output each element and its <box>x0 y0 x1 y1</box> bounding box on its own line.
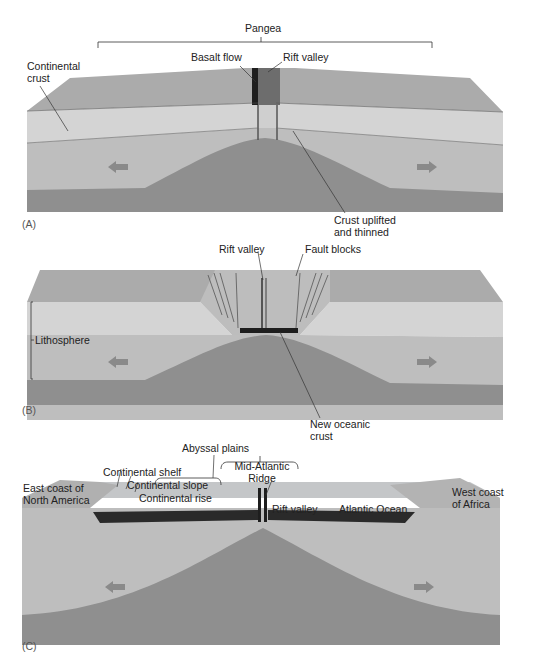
east-coast-label: East coast of North America <box>23 482 90 506</box>
rift-valley-label: Rift valley <box>219 243 265 255</box>
rift-valley-label: Rift valley <box>272 503 318 515</box>
basalt-flow-label: Basalt flow <box>191 51 242 63</box>
crust-uplifted-label: Crust uplifted and thinned <box>334 214 396 238</box>
continental-rise-label: Continental rise <box>139 492 212 504</box>
panel-a: Pangea Continental crust Basalt flow Rif… <box>0 0 538 240</box>
panel-b-tag: (B) <box>22 404 36 416</box>
abyssal-plains-label: Abyssal plains <box>182 442 249 454</box>
west-coast-label: West coast of Africa <box>452 486 504 510</box>
panel-c: Abyssal plains Mid-Atlantic Ridge East c… <box>0 440 538 658</box>
continental-crust-label: Continental crust <box>27 60 80 84</box>
continental-shelf-label: Continental shelf <box>103 466 181 478</box>
mid-atlantic-ridge-label: Mid-Atlantic Ridge <box>232 460 292 484</box>
panel-c-tag: (C) <box>22 640 37 652</box>
lithosphere-label: Lithosphere <box>35 334 90 346</box>
new-oceanic-crust-label: New oceanic crust <box>310 418 370 442</box>
panel-a-illustration <box>0 0 538 240</box>
atlantic-ocean-label: Atlantic Ocean <box>339 503 407 515</box>
fault-blocks-label: Fault blocks <box>305 243 361 255</box>
panel-a-tag: (A) <box>22 218 36 230</box>
pangea-label: Pangea <box>245 22 281 34</box>
continental-slope-label: Continental slope <box>127 479 208 491</box>
panel-b: Rift valley Fault blocks Lithosphere New… <box>0 240 538 440</box>
rift-valley-label: Rift valley <box>283 51 329 63</box>
